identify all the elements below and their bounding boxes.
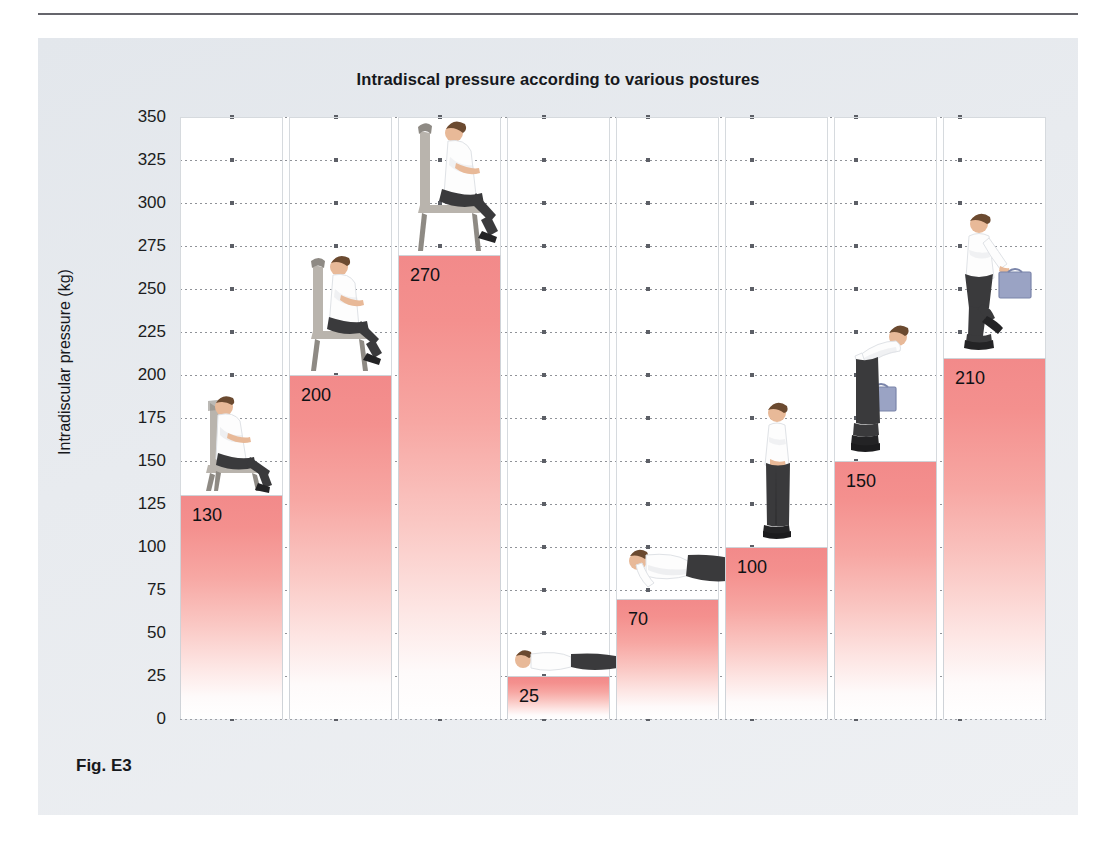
y-tick-label: 200 [138, 365, 166, 385]
bar-value-label: 25 [519, 686, 539, 707]
bar-slot: 70 [616, 117, 719, 719]
bar-slot: 210 [943, 117, 1046, 719]
bending-forward-briefcase-icon [834, 319, 937, 461]
y-tick-label: 100 [138, 537, 166, 557]
bar[interactable]: 150 [834, 461, 937, 719]
sitting-leaning-forward-icon [398, 115, 501, 255]
y-tick-label: 300 [138, 193, 166, 213]
bar[interactable]: 210 [943, 358, 1046, 719]
y-tick-label: 250 [138, 279, 166, 299]
y-tick-label: 225 [138, 322, 166, 342]
y-tick-label: 350 [138, 107, 166, 127]
bar-value-label: 210 [955, 368, 985, 389]
sitting-reclined-icon [180, 377, 283, 495]
cut-off-header-text [40, 0, 260, 3]
standing-icon [725, 397, 828, 547]
bar-slot: 130 [180, 117, 283, 719]
y-tick-label: 25 [147, 666, 166, 686]
y-tick-label: 325 [138, 150, 166, 170]
chart-title: Intradiscal pressure according to variou… [38, 70, 1078, 89]
bar[interactable]: 70 [616, 599, 719, 719]
bar-slot: 25 [507, 117, 610, 719]
y-tick-label: 125 [138, 494, 166, 514]
figure-panel: Intradiscal pressure according to variou… [38, 38, 1078, 815]
bar-value-label: 200 [301, 385, 331, 406]
y-tick-label: 0 [157, 709, 166, 729]
bar-column-outline [507, 117, 610, 719]
y-tick-label: 75 [147, 580, 166, 600]
bar[interactable]: 130 [180, 495, 283, 719]
bars-layer: 130 200 [180, 117, 1046, 719]
y-axis-tick-labels: 0255075100125150175200225250275300325350 [78, 117, 174, 719]
y-tick-label: 275 [138, 236, 166, 256]
bar-value-label: 150 [846, 471, 876, 492]
bar-value-label: 130 [192, 505, 222, 526]
bar[interactable]: 200 [289, 375, 392, 719]
y-tick-label: 150 [138, 451, 166, 471]
y-axis-label: Intradiscular pressure (kg) [56, 142, 74, 582]
bar[interactable]: 25 [507, 676, 610, 719]
bar[interactable]: 100 [725, 547, 828, 719]
lying-supine-icon [507, 640, 610, 676]
bar-value-label: 270 [410, 265, 440, 286]
bar-slot: 150 [834, 117, 937, 719]
bar-slot: 200 [289, 117, 392, 719]
bar-slot: 100 [725, 117, 828, 719]
bar-value-label: 70 [628, 609, 648, 630]
y-tick-label: 175 [138, 408, 166, 428]
y-tick-label: 50 [147, 623, 166, 643]
lying-prone-propped-icon [616, 543, 719, 599]
sitting-upright-icon [289, 245, 392, 375]
figure-caption: Fig. E3 [76, 756, 132, 776]
bar[interactable]: 270 [398, 255, 501, 719]
bar-slot: 270 [398, 117, 501, 719]
top-divider-rule [38, 13, 1078, 15]
gridline [180, 719, 1046, 720]
bar-value-label: 100 [737, 557, 767, 578]
walking-briefcase-icon [943, 208, 1046, 358]
